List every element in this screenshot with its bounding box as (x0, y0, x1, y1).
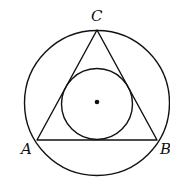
triangle-abc (37, 30, 157, 140)
label-c: C (91, 7, 103, 25)
label-a: A (19, 140, 32, 158)
center-point (95, 100, 100, 105)
geometry-diagram: C A B (0, 0, 170, 183)
label-b: B (159, 140, 170, 158)
